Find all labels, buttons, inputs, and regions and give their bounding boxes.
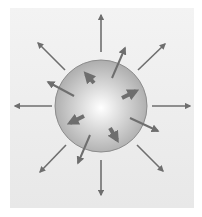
sphere (55, 60, 147, 152)
diagram-canvas (0, 0, 202, 217)
sphere-diagram (0, 0, 202, 217)
